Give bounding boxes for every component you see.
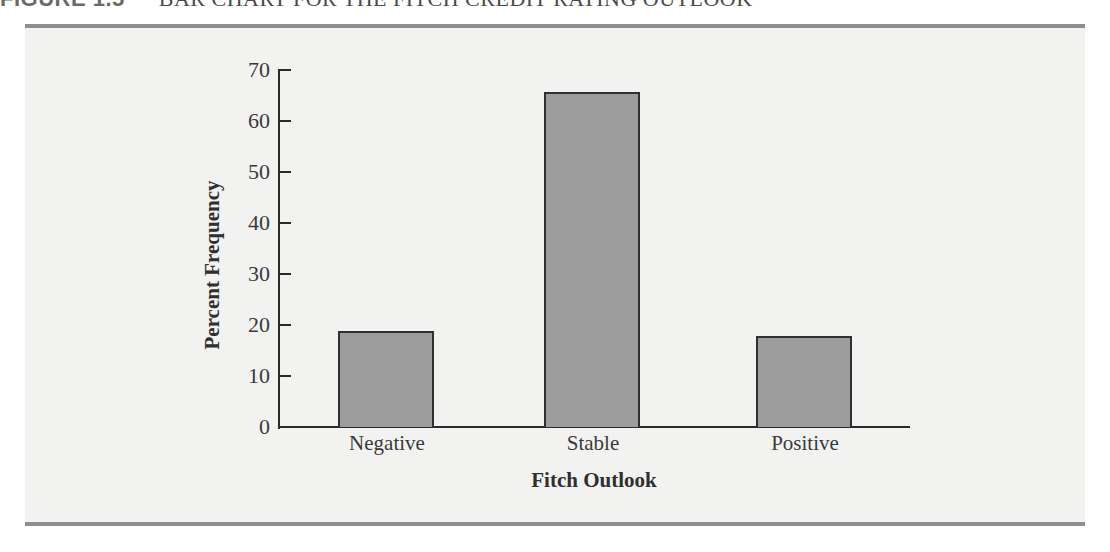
x-axis-title: Fitch Outlook (444, 468, 744, 493)
figure-title: BAR CHART FOR THE FITCH CREDIT RATING OU… (159, 0, 753, 11)
y-tick (279, 222, 291, 224)
y-tick (279, 120, 291, 122)
y-tick (279, 375, 291, 377)
y-tick (279, 324, 291, 326)
category-label-negative: Negative (307, 431, 467, 456)
y-axis-title: Percent Frequency (200, 181, 225, 350)
top-rule (25, 24, 1085, 28)
y-tick-label: 40 (220, 212, 270, 234)
bottom-rule (25, 522, 1085, 526)
y-tick (279, 69, 291, 71)
y-tick-label: 50 (220, 161, 270, 183)
category-label-positive: Positive (725, 431, 885, 456)
category-label-stable: Stable (513, 431, 673, 456)
y-tick (279, 171, 291, 173)
y-tick-label: 70 (220, 59, 270, 81)
y-tick-label: 10 (220, 365, 270, 387)
y-tick-label: 20 (220, 314, 270, 336)
bar-stable (544, 92, 640, 427)
bar-negative (338, 331, 434, 427)
figure-caption: FIGURE 1.5 BAR CHART FOR THE FITCH CREDI… (0, 0, 1110, 10)
y-tick-label: 0 (220, 416, 270, 438)
bar-positive (756, 336, 852, 427)
y-tick (279, 273, 291, 275)
y-tick-label: 60 (220, 110, 270, 132)
y-tick-label: 30 (220, 263, 270, 285)
figure-label: FIGURE 1.5 (0, 0, 125, 11)
